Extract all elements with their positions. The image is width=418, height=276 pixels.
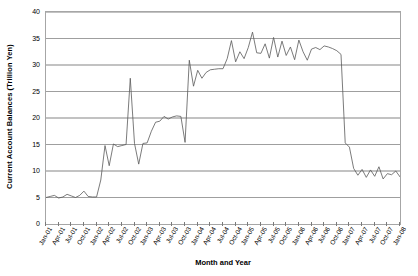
y-tick-label: 5 bbox=[18, 193, 40, 200]
gridlines bbox=[46, 12, 400, 198]
y-tick-label: 20 bbox=[18, 114, 40, 121]
x-tick-mark bbox=[311, 222, 312, 226]
x-axis-title: Month and Year bbox=[45, 258, 401, 267]
y-tick-label: 30 bbox=[18, 61, 40, 68]
y-tick-label: 40 bbox=[18, 8, 40, 15]
y-tick-label: 35 bbox=[18, 34, 40, 41]
chart-container: Current Account Balances (Trillion Yen) … bbox=[0, 0, 418, 276]
x-tick-mark bbox=[235, 222, 236, 226]
x-tick-mark bbox=[134, 222, 135, 226]
current-account-balance-line bbox=[46, 32, 400, 198]
x-tick-mark bbox=[273, 222, 274, 226]
x-tick-mark bbox=[197, 222, 198, 226]
y-tick-label: 0 bbox=[18, 220, 40, 227]
plot-area bbox=[45, 11, 401, 225]
x-tick-mark bbox=[96, 222, 97, 226]
series-plot bbox=[46, 12, 400, 224]
y-tick-label: 10 bbox=[18, 167, 40, 174]
y-axis-tick-labels: 0510152025303540 bbox=[18, 0, 40, 276]
y-axis-title-text: Current Account Balances (Trillion Yen) bbox=[5, 44, 14, 189]
y-tick-label: 25 bbox=[18, 87, 40, 94]
y-tick-label: 15 bbox=[18, 140, 40, 147]
x-tick-mark bbox=[58, 222, 59, 226]
x-tick-mark bbox=[374, 222, 375, 226]
y-axis-title: Current Account Balances (Trillion Yen) bbox=[0, 0, 18, 232]
